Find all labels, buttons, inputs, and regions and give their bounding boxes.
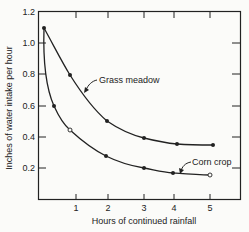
corn-crop-line	[44, 28, 210, 175]
x-tick-5: 5	[207, 203, 212, 213]
grass-meadow-line	[44, 28, 213, 145]
grass-meadow-label: Grass meadow	[99, 75, 160, 85]
x-tick-1: 1	[73, 203, 78, 213]
grass-meadow-annotation: Grass meadow	[84, 75, 160, 93]
y-tick-1.2: 1.2	[22, 7, 35, 17]
rainfall-intake-chart: 1.2 1.0 0.8 0.6 0.4 0.2 1 2 3 4 5 Hours …	[0, 0, 249, 232]
x-tick-3: 3	[141, 203, 146, 213]
x-ticks-top	[76, 12, 210, 18]
y-axis-title: Inches of water intake per hour	[4, 46, 14, 170]
x-tick-4: 4	[171, 203, 176, 213]
x-axis-title: Hours of continued rainfall	[92, 216, 197, 226]
corn-crop-annotation: Corn crop	[179, 157, 232, 174]
x-tick-labels: 1 2 3 4 5	[73, 203, 212, 213]
y-tick-0.6: 0.6	[22, 101, 35, 111]
y-tick-0.4: 0.4	[22, 132, 35, 142]
y-tick-labels: 1.2 1.0 0.8 0.6 0.4 0.2	[22, 7, 35, 173]
y-tick-0.2: 0.2	[22, 163, 35, 173]
y-tick-0.8: 0.8	[22, 69, 35, 79]
y-tick-1.0: 1.0	[22, 38, 35, 48]
corn-crop-label: Corn crop	[192, 157, 232, 167]
plot-frame	[39, 12, 241, 200]
grass-meadow-leader	[86, 80, 97, 90]
y-ticks-right	[232, 43, 240, 168]
x-tick-2: 2	[105, 203, 110, 213]
